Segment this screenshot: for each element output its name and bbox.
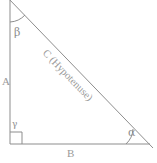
angle-label-beta: β (14, 27, 20, 38)
angle-label-gamma: γ (12, 120, 17, 129)
right-angle-marker (10, 132, 22, 144)
side-label-b: B (67, 148, 74, 159)
right-triangle-diagram: A B C (Hypotenuse) β γ α (0, 0, 157, 163)
angle-arc-beta (10, 15, 25, 22)
angle-label-alpha: α (128, 127, 135, 138)
side-label-a: A (2, 76, 10, 87)
